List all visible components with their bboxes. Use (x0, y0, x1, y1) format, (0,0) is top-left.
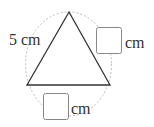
right-side-answer-box[interactable] (97, 28, 122, 54)
triangle-circle-diagram: 5 cm cm cm (0, 0, 154, 127)
right-side-unit-label: cm (125, 34, 145, 51)
bottom-side-answer-box[interactable] (44, 94, 69, 120)
bottom-side-unit-label: cm (71, 100, 91, 117)
left-side-length-label: 5 cm (9, 31, 41, 48)
